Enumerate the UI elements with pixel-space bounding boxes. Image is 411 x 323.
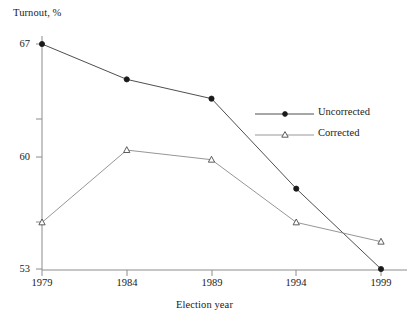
plot-area <box>0 0 411 323</box>
data-point-uncorrected-1989 <box>209 96 214 101</box>
chart-container: Turnout, % Election year 67 60 53 1979 1… <box>0 0 411 323</box>
data-point-uncorrected-1979 <box>39 41 44 46</box>
series-group <box>39 41 384 271</box>
data-point-uncorrected-1999 <box>378 266 383 271</box>
data-point-corrected-1984 <box>124 147 130 153</box>
data-point-uncorrected-1984 <box>124 77 129 82</box>
data-point-corrected-1994 <box>293 219 299 225</box>
series-line-corrected <box>42 150 381 242</box>
legend-sample-uncorrected <box>255 112 314 117</box>
legend-sample-corrected <box>255 132 314 138</box>
data-point-uncorrected-1994 <box>294 186 299 191</box>
